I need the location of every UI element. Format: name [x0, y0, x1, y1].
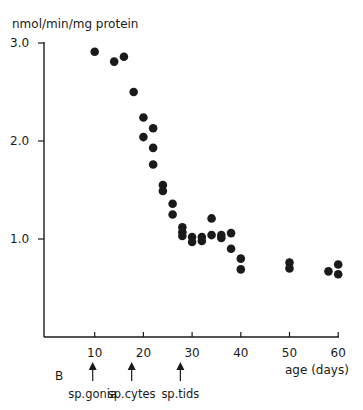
- data-point: [168, 210, 177, 219]
- data-point: [207, 231, 216, 240]
- arrow-up-icon: [128, 362, 136, 370]
- x-tick-label: 10: [87, 346, 102, 360]
- data-point: [285, 264, 294, 273]
- data-point: [334, 270, 343, 279]
- data-point: [188, 238, 197, 247]
- data-point: [139, 133, 148, 142]
- x-tick-label: 60: [331, 346, 346, 360]
- y-tick-label: 1.0: [10, 232, 29, 246]
- data-point: [178, 232, 187, 241]
- data-point: [129, 88, 138, 97]
- x-tick-label: 50: [282, 346, 297, 360]
- data-point: [168, 199, 177, 208]
- y-axis-label: nmol/min/mg protein: [12, 17, 138, 31]
- scatter-chart: nmol/min/mg protein 1.02.03.0 1020304050…: [0, 0, 363, 410]
- arrow-up-icon: [89, 362, 97, 370]
- data-point: [237, 254, 246, 263]
- data-point: [198, 237, 207, 246]
- y-ticks: 1.02.03.0: [10, 36, 44, 246]
- data-point: [227, 245, 236, 254]
- stage-label: sp.tids: [161, 387, 199, 401]
- x-axis-label: age (days): [285, 363, 349, 377]
- stage-annotations: sp.goniasp.cytessp.tids: [68, 362, 199, 401]
- data-point: [139, 113, 148, 122]
- data-point: [149, 160, 158, 169]
- x-tick-label: 30: [184, 346, 199, 360]
- data-point: [120, 52, 129, 61]
- data-point: [217, 231, 226, 240]
- data-point: [90, 48, 99, 57]
- arrow-up-icon: [176, 362, 184, 370]
- data-point: [237, 265, 246, 274]
- data-point: [149, 124, 158, 133]
- data-point: [159, 187, 168, 196]
- data-point: [334, 260, 343, 269]
- y-tick-label: 2.0: [10, 134, 29, 148]
- data-point: [227, 229, 236, 238]
- data-point: [324, 267, 333, 276]
- data-point: [110, 57, 119, 66]
- x-tick-label: 20: [136, 346, 151, 360]
- x-tick-label: 40: [233, 346, 248, 360]
- x-ticks: 102030405060: [87, 332, 346, 360]
- data-point: [207, 214, 216, 223]
- y-tick-label: 3.0: [10, 36, 29, 50]
- panel-label: B: [55, 369, 63, 383]
- data-points: [90, 48, 342, 279]
- data-point: [149, 144, 158, 153]
- stage-label: sp.cytes: [108, 387, 156, 401]
